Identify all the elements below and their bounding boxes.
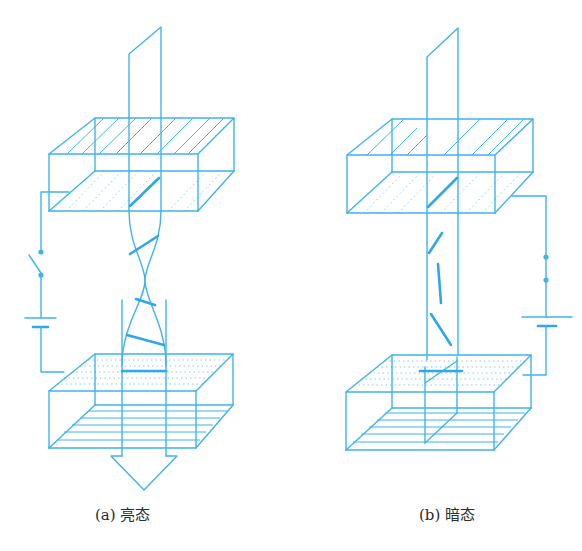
bottom-polarizer-b	[346, 355, 531, 450]
lcd-diagram-svg: .s { stroke: #3fb4ea; stroke-width: 1.4;…	[0, 0, 582, 551]
panel-a-bright-state	[25, 27, 234, 490]
circuit-closed-switch	[512, 196, 572, 375]
caption-a-bright-state: (a) 亮态	[95, 503, 150, 524]
top-polarizer-a	[49, 118, 234, 211]
panel-b-dark-state	[346, 28, 572, 450]
lcd-figure: .s { stroke: #3fb4ea; stroke-width: 1.4;…	[0, 0, 582, 551]
twisted-lc-column-a	[122, 211, 166, 371]
circuit-open-switch	[25, 192, 69, 372]
bottom-polarizer-a	[49, 354, 233, 448]
light-output-arrow	[111, 300, 177, 490]
incident-light-slab-a	[129, 27, 161, 211]
incident-light-slab-b	[427, 28, 458, 213]
aligned-lc-column-b	[420, 213, 462, 371]
caption-b-dark-state: (b) 暗态	[419, 503, 475, 524]
top-polarizer-b	[347, 119, 533, 213]
